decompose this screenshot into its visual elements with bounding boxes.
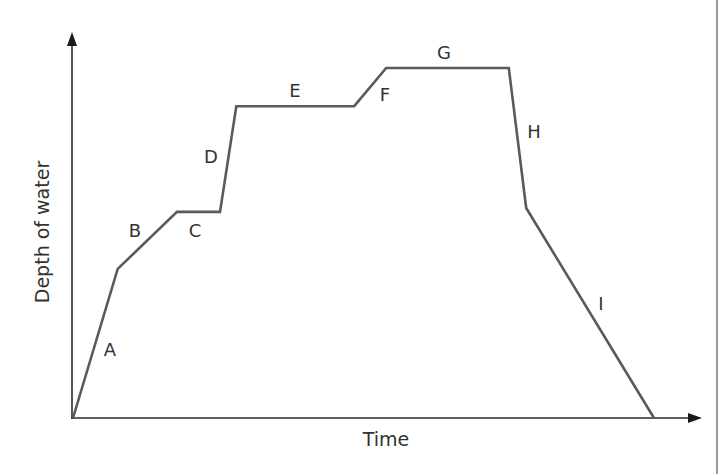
segment-label-g: G [437, 42, 451, 63]
x-axis-title: Time [362, 428, 410, 450]
segment-label-a: A [104, 339, 117, 360]
segment-label-f: F [380, 84, 390, 105]
segment-label-c: C [189, 220, 202, 241]
y-axis-arrow-icon [67, 32, 77, 46]
depth-time-chart: A B C D E F G H I Time Depth of water [0, 0, 721, 474]
segment-label-b: B [129, 220, 141, 241]
segment-label-d: D [204, 146, 218, 167]
x-axis-arrow-icon [688, 413, 702, 423]
segment-label-h: H [527, 121, 541, 142]
segment-label-i: I [598, 293, 603, 314]
depth-line [73, 68, 654, 418]
frame-border [716, 0, 718, 474]
y-axis-title: Depth of water [31, 161, 53, 304]
segment-label-e: E [289, 80, 300, 101]
